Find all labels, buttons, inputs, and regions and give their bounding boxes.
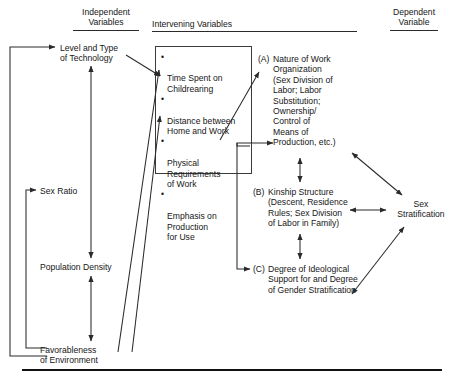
list-item: • Physical Requirements of Work (161, 137, 249, 190)
outcome-a-tag: (A) (258, 54, 269, 64)
bullet-icon: • (161, 189, 164, 200)
list-item-label: Physical Requirements of Work (167, 158, 221, 189)
node-level-and-type-of-technology: Level and Type of Technology (60, 43, 118, 64)
header-dependent-variable: Dependent Variable (378, 7, 450, 28)
node-favorableness-of-environment: Favorableness of Environment (40, 345, 98, 366)
list-item: • Distance between Home and Work (161, 94, 249, 136)
header-independent-variables: Independent Variables (60, 7, 152, 28)
node-sex-stratification: Sex Stratification (390, 199, 452, 220)
list-item: • Emphasis on Production for Use (161, 190, 249, 243)
arrow-environment-to-technology (10, 47, 55, 356)
list-item-label: Emphasis on Production for Use (167, 211, 217, 242)
outcome-b-kinship-structure: (B) Kinship Structure (Descent, Residenc… (253, 187, 365, 229)
outcome-c-text: Degree of Ideological Support for and De… (268, 264, 373, 295)
outcome-b-text: Kinship Structure (Descent, Residence Ru… (268, 187, 365, 229)
outcome-c-degree-of-ideological-support: (C) Degree of Ideological Support for an… (253, 264, 373, 295)
list-item-label: Distance between Home and Work (167, 116, 235, 137)
node-sex-ratio: Sex Ratio (40, 186, 77, 196)
bullet-icon: • (161, 136, 164, 147)
list-item: • Time Spent on Childrearing (161, 52, 249, 94)
arrow-environment-to-intervening-box-1 (118, 70, 159, 352)
bullet-icon: • (161, 52, 164, 63)
bottom-divider (22, 369, 442, 371)
list-item-label: Time Spent on Childrearing (167, 73, 223, 94)
bullet-icon: • (161, 94, 164, 105)
outcome-a-nature-of-work-organization: (A) Nature of Work Organization (Sex Div… (258, 54, 363, 148)
intervening-variables-list: • Time Spent on Childrearing • Distance … (161, 52, 249, 243)
header-independent-underline (73, 30, 139, 31)
diagram-canvas: Independent Variables Intervening Variab… (0, 0, 453, 382)
header-intervening-underline (152, 31, 357, 32)
outcome-a-text: Nature of Work Organization (Sex Divisio… (273, 54, 363, 148)
node-population-density: Population Density (40, 262, 112, 272)
outcome-b-tag: (B) (253, 187, 264, 197)
header-intervening-variables: Intervening Variables (152, 19, 232, 29)
outcome-c-tag: (C) (253, 264, 265, 274)
header-dependent-underline (390, 30, 438, 31)
